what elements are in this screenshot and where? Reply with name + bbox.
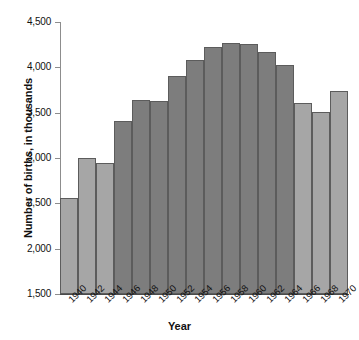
bar-1942 (78, 158, 96, 294)
y-axis-tick-label: 3,000 (7, 152, 51, 163)
birth-rate-bar-chart: Number of births, in thousands 1,5002,00… (0, 0, 359, 340)
bar-1962 (258, 52, 276, 294)
bar-1968 (312, 112, 330, 294)
bar-1950 (150, 101, 168, 294)
y-axis-tick-label: 4,500 (7, 16, 51, 27)
bar-1940 (60, 198, 78, 294)
plot-area (60, 22, 348, 294)
y-axis-tick-label: 2,500 (7, 197, 51, 208)
y-axis-tick-label: 3,500 (7, 107, 51, 118)
bar-1960 (240, 44, 258, 294)
bar-1944 (96, 163, 114, 294)
bar-1956 (204, 47, 222, 294)
y-axis-tick-label: 1,500 (7, 288, 51, 299)
bar-1952 (168, 76, 186, 295)
bar-1946 (114, 121, 132, 294)
y-axis-tick-label: 4,000 (7, 61, 51, 72)
y-axis-tick-label: 2,000 (7, 243, 51, 254)
y-axis-tick (55, 294, 60, 295)
bar-1958 (222, 43, 240, 294)
bar-1970 (330, 91, 348, 294)
bar-1966 (294, 103, 312, 294)
bar-1948 (132, 100, 150, 294)
x-axis-title: Year (0, 320, 359, 332)
bar-1954 (186, 60, 204, 294)
bar-1964 (276, 65, 294, 294)
